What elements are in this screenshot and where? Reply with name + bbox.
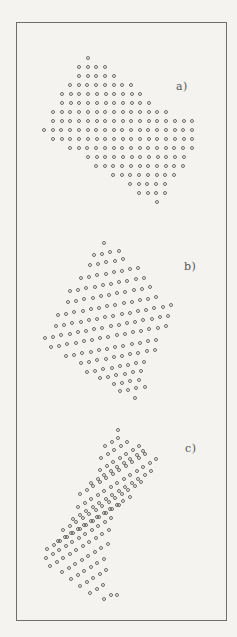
lattice-dot: [65, 535, 69, 539]
lattice-dot: [68, 552, 72, 556]
lattice-dot: [90, 528, 94, 532]
lattice-dot: [98, 572, 102, 576]
lattice-dot: [128, 473, 132, 477]
lattice-dot: [81, 544, 85, 548]
lattice-dot: [94, 508, 98, 512]
lattice-dot: [45, 547, 49, 551]
lattice-dot: [112, 448, 116, 452]
lattice-dot: [111, 472, 115, 476]
lattice-dot: [110, 440, 114, 444]
lattice-dot: [89, 565, 93, 569]
lattice-dot: [148, 461, 152, 465]
lattice-dot: [74, 520, 78, 524]
lattice-dot: [76, 573, 80, 577]
lattice-dot: [102, 489, 106, 493]
lattice-dot: [135, 469, 139, 473]
lattice-dot: [100, 504, 104, 508]
lattice-dot: [113, 496, 117, 500]
lattice-dot: [91, 576, 95, 580]
lattice-dot: [57, 548, 61, 552]
lattice-dot: [137, 456, 141, 460]
lattice-dot: [106, 542, 110, 546]
lattice-dot: [51, 552, 55, 556]
lattice-dot: [115, 481, 119, 485]
lattice-dot: [55, 560, 59, 564]
lattice-dot: [133, 484, 137, 488]
lattice-dot: [69, 577, 73, 581]
lattice-dot: [81, 516, 85, 520]
lattice-dot: [60, 570, 64, 574]
lattice-dot: [128, 495, 132, 499]
lattice-dot: [80, 558, 84, 562]
lattice-dot: [109, 593, 113, 597]
lattice-dot: [141, 465, 145, 469]
lattice-dot: [126, 488, 130, 492]
lattice-dot: [91, 484, 95, 488]
lattice-dot: [124, 464, 128, 468]
lattice-dot: [104, 568, 108, 572]
lattice-dot: [116, 428, 120, 432]
lattice-dot: [139, 480, 143, 484]
lattice-dot: [109, 485, 113, 489]
lattice-dot: [95, 587, 99, 591]
lattice-dot: [78, 527, 82, 531]
lattice-dot: [44, 556, 48, 560]
lattice-dot: [61, 528, 65, 532]
lattice-dot: [99, 546, 103, 550]
lattice-dot: [93, 550, 97, 554]
lattice-dot: [77, 536, 81, 540]
lattice-dot: [109, 516, 113, 520]
lattice-dot: [94, 536, 98, 540]
lattice-dot: [115, 593, 119, 597]
lattice-dot: [102, 557, 106, 561]
lattice-dot: [96, 524, 100, 528]
lattice-dot: [89, 497, 93, 501]
lattice-dot: [98, 468, 102, 472]
lattice-dot: [111, 460, 115, 464]
lattice-dot: [143, 473, 147, 477]
lattice-dot: [87, 512, 91, 516]
lattice-dot: [105, 464, 109, 468]
lattice-dot: [91, 519, 95, 523]
lattice-dot: [73, 562, 77, 566]
lattice-dot: [78, 492, 82, 496]
lattice-dot: [116, 436, 120, 440]
panel-label-c: c): [185, 442, 196, 455]
lattice-dot: [96, 493, 100, 497]
lattice-dot: [74, 548, 78, 552]
lattice-dot: [64, 544, 68, 548]
lattice-dot: [83, 501, 87, 505]
lattice-dot: [149, 469, 153, 473]
lattice-dot: [58, 539, 62, 543]
lattice-dot: [131, 448, 135, 452]
lattice-dot: [119, 444, 123, 448]
lattice-dot: [100, 532, 104, 536]
lattice-dot: [107, 500, 111, 504]
lattice-dot: [76, 505, 80, 509]
lattice-dot: [87, 540, 91, 544]
lattice-dot: [67, 566, 71, 570]
lattice-dot: [99, 456, 103, 460]
lattice-dot: [103, 444, 107, 448]
lattice-dot: [78, 584, 82, 588]
lattice-dot: [88, 591, 92, 595]
lattice-dot: [71, 531, 75, 535]
lattice-dot: [68, 524, 72, 528]
lattice-dot: [52, 543, 56, 547]
lattice-dot: [121, 499, 125, 503]
lattice-dot: [104, 511, 108, 515]
lattice-dot: [98, 480, 102, 484]
lattice-dot: [143, 452, 147, 456]
lattice-dot: [107, 528, 111, 532]
lattice-dot: [61, 556, 65, 560]
lattice-dot: [95, 561, 99, 565]
lattice-dot: [130, 460, 134, 464]
lattice-dot: [103, 520, 107, 524]
lattice-dot: [85, 580, 89, 584]
lattice-dot: [117, 468, 121, 472]
lattice-dot: [86, 554, 90, 558]
lattice-dot: [101, 583, 105, 587]
lattice-dot: [83, 532, 87, 536]
lattice-dot: [120, 492, 124, 496]
lattice-dot: [106, 452, 110, 456]
